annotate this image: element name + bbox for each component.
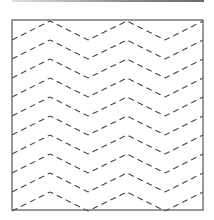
zigzag-line [12, 173, 203, 192]
zigzag-lines [12, 21, 203, 211]
zigzag-line [12, 40, 203, 59]
zigzag-line [12, 78, 203, 97]
zigzag-line [12, 154, 203, 173]
zigzag-line [12, 116, 203, 135]
zigzag-diagram [0, 0, 214, 220]
zigzag-line [12, 135, 203, 154]
zigzag-line [12, 21, 203, 40]
zigzag-line [12, 97, 203, 116]
zigzag-line [12, 59, 203, 78]
zigzag-line [12, 192, 203, 211]
diagram-frame [12, 20, 203, 210]
